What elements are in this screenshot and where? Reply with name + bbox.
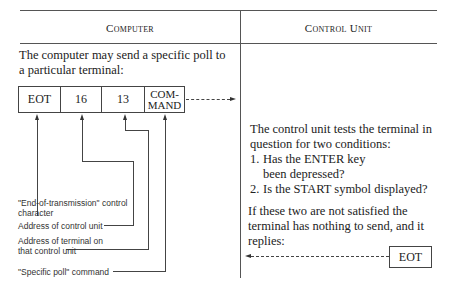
top-rule <box>20 10 437 11</box>
arrow-up-icon <box>123 114 127 120</box>
control-unit-intro-text: The control unit tests the terminal in q… <box>250 122 445 152</box>
connector-control-unit-h <box>82 161 133 162</box>
message-field-command: COM- MAND <box>144 86 185 113</box>
label-specific-poll: "Specific poll" command <box>18 267 128 277</box>
message-field-terminal-address: 13 <box>101 86 145 113</box>
condition-1: 1. Has the ENTER key been depressed? <box>250 152 445 182</box>
reply-field-eot: EOT <box>389 246 432 268</box>
condition-2: 2. Is the START symbol displayed? <box>250 182 445 197</box>
arrow-up-icon <box>163 114 167 120</box>
condition-2-number: 2. <box>250 182 259 197</box>
header-rule <box>20 43 437 44</box>
reply-dashed-line <box>251 256 389 257</box>
label-terminal-address: Address of terminal on that control unit <box>18 236 118 256</box>
message-field-control-unit-address: 16 <box>60 86 102 113</box>
label-control-unit-address: Address of control unit <box>18 221 118 231</box>
arrow-up-icon <box>80 114 84 120</box>
condition-1-number: 1. <box>250 152 259 167</box>
condition-1-text: Has the ENTER key been depressed? <box>263 152 373 182</box>
computer-intro-text: The computer may send a specific poll to… <box>19 48 234 78</box>
connector-terminal-h <box>125 130 148 131</box>
connector-command <box>165 118 166 271</box>
control-unit-outcome-text: If these two are not satisfied the termi… <box>248 204 446 249</box>
column-divider <box>240 10 241 278</box>
connector-control-unit <box>82 118 83 162</box>
computer-column-header: Computer <box>20 22 240 34</box>
message-field-eot: EOT <box>18 86 61 113</box>
condition-2-text: Is the START symbol displayed? <box>263 182 445 197</box>
connector-control-unit-v2 <box>133 161 134 226</box>
arrow-up-icon <box>35 114 39 120</box>
arrow-right-icon <box>230 97 236 101</box>
poll-dashed-line <box>186 99 230 100</box>
connector-terminal-v2 <box>148 130 149 250</box>
label-eot: "End-of-transmission" control character <box>18 198 133 218</box>
control-unit-column-header: Control Unit <box>240 22 437 34</box>
